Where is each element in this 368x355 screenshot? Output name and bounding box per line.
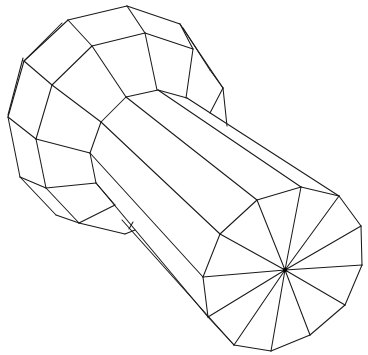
cap-spoke-edge [234,270,285,345]
cap-rim-edge [310,305,345,335]
head-edge [92,33,145,46]
end-cap-fan [203,187,362,351]
head-edge [8,117,20,177]
cap-rim-edge [203,234,220,277]
cap-spoke-edge [285,270,310,335]
head-edge [223,88,227,126]
cap-spoke-edge [285,226,361,270]
cap-spoke-edge [220,234,285,270]
cap-spoke-edge [271,270,285,351]
cap-rim-edge [301,187,339,196]
head-edge [210,70,223,88]
cap-center-vertex [283,268,287,272]
cap-rim-edge [345,265,362,305]
head-edge [210,88,223,113]
cap-spoke-edge [285,196,339,270]
head-edge [145,33,157,90]
wireframe-figure [0,0,368,355]
head-edge [158,90,187,98]
cap-spoke-edge [257,200,285,270]
cap-spoke-edge [203,270,285,277]
head-edge [183,28,210,70]
head-edge [36,139,90,153]
head-edge [52,85,101,122]
cap-rim-edge [208,317,234,345]
mushroom-head-wireframe [8,6,227,234]
head-edge [8,58,23,115]
head-edge [127,6,180,24]
head-edge [101,97,126,122]
shaft-edge [187,98,339,196]
cap-spoke-edge [285,270,345,305]
head-edge [20,177,56,215]
cap-rim-edge [234,345,271,351]
head-edge [52,46,92,85]
head-edge [36,139,46,188]
cap-rim-edge [339,196,361,226]
head-edge [79,205,115,223]
head-edge [126,90,158,97]
cap-rim-edge [361,226,362,265]
head-edge [36,85,52,139]
head-edge [186,49,193,98]
cap-rim-edge [220,200,257,234]
cap-rim-edge [257,187,301,200]
mesh-drawing [0,0,368,355]
head-edge [68,20,92,46]
cap-spoke-edge [285,265,362,270]
cap-rim-edge [271,335,310,351]
head-edge [127,6,145,33]
head-edge [90,122,101,153]
prism-shaft-wireframe [90,90,339,345]
head-edge [92,46,126,97]
head-edge [68,6,127,20]
head-edge [24,20,68,61]
head-edge [46,183,96,188]
cap-spoke-edge [208,270,285,317]
shaft-edge [90,153,203,277]
head-edge [24,61,52,85]
head-edge [90,153,96,183]
head-edge [20,177,46,188]
shaft-edge [101,122,220,234]
head-edge [8,61,24,117]
cap-spoke-edge [285,187,301,270]
head-edge [79,223,125,234]
